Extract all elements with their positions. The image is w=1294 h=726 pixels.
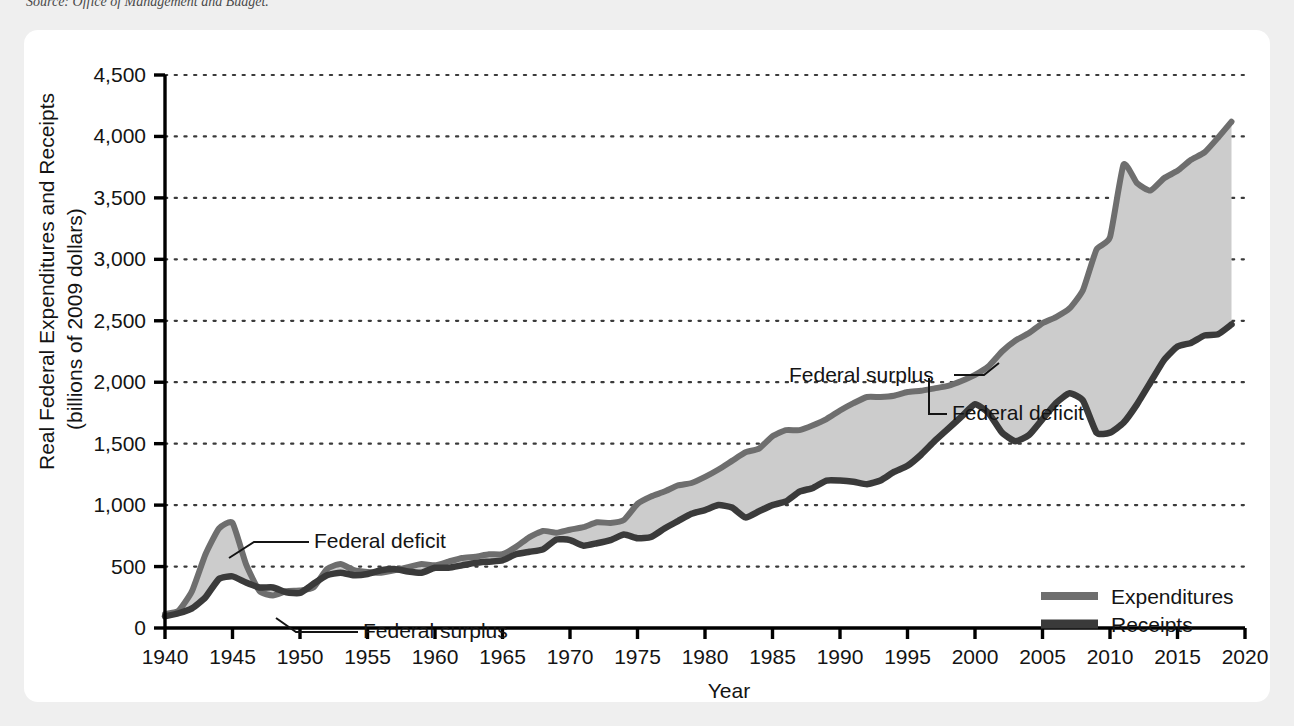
legend-label[interactable]: Receipts xyxy=(1111,613,1193,636)
x-tick-label: 1965 xyxy=(479,645,526,668)
x-tick-label: 1950 xyxy=(277,645,324,668)
y-tick-label: 4,500 xyxy=(93,63,146,86)
x-tick-label: 1970 xyxy=(547,645,594,668)
annotation-leader-line xyxy=(276,618,358,632)
y-tick-label: 2,500 xyxy=(93,309,146,332)
x-tick-label: 1960 xyxy=(412,645,459,668)
annotation-label: Federal surplus xyxy=(789,363,934,386)
annotation-label: Federal surplus xyxy=(363,619,508,642)
x-tick-label: 1980 xyxy=(682,645,729,668)
x-tick-label: 1975 xyxy=(614,645,661,668)
x-tick-label: 2020 xyxy=(1222,645,1269,668)
x-tick-label: 1955 xyxy=(344,645,391,668)
y-tick-label: 1,000 xyxy=(93,493,146,516)
y-axis-title: Real Federal Expenditures and Receipts (… xyxy=(35,93,86,470)
source-note-text: Source: Office of Management and Budget. xyxy=(26,0,269,9)
x-axis-tick-labels: 1940194519501955196019651970197519801985… xyxy=(142,645,1269,668)
x-tick-label: 1945 xyxy=(209,645,256,668)
x-tick-label: 1990 xyxy=(817,645,864,668)
x-tick-label: 2010 xyxy=(1087,645,1134,668)
chart-canvas: 05001,0001,5002,0002,5003,0003,5004,0004… xyxy=(24,30,1270,702)
y-tick-label: 3,500 xyxy=(93,186,146,209)
x-tick-label: 2000 xyxy=(952,645,999,668)
y-tick-label: 2,000 xyxy=(93,370,146,393)
page-background: Source: Office of Management and Budget.… xyxy=(0,0,1294,726)
x-tick-label: 1995 xyxy=(884,645,931,668)
legend-label[interactable]: Expenditures xyxy=(1111,585,1234,608)
x-axis-title: Year xyxy=(708,679,750,702)
y-tick-label: 500 xyxy=(111,555,146,578)
x-tick-label: 1985 xyxy=(749,645,796,668)
y-axis-tick-labels: 05001,0001,5002,0002,5003,0003,5004,0004… xyxy=(93,63,146,639)
annotation-label: Federal deficit xyxy=(314,529,446,552)
x-tick-label: 2005 xyxy=(1019,645,1066,668)
y-axis-title-line1: Real Federal Expenditures and Receipts xyxy=(35,93,58,470)
x-tick-label: 1940 xyxy=(142,645,189,668)
y-tick-label: 4,000 xyxy=(93,124,146,147)
source-note: Source: Office of Management and Budget. xyxy=(26,0,269,10)
y-tick-label: 1,500 xyxy=(93,432,146,455)
y-tick-label: 3,000 xyxy=(93,247,146,270)
annotation-label: Federal deficit xyxy=(952,401,1084,424)
figure-card: 05001,0001,5002,0002,5003,0003,5004,0004… xyxy=(24,30,1270,702)
y-tick-label: 0 xyxy=(134,616,146,639)
x-tick-label: 2015 xyxy=(1154,645,1201,668)
y-axis-title-line2: (billions of 2009 dollars) xyxy=(63,208,86,430)
